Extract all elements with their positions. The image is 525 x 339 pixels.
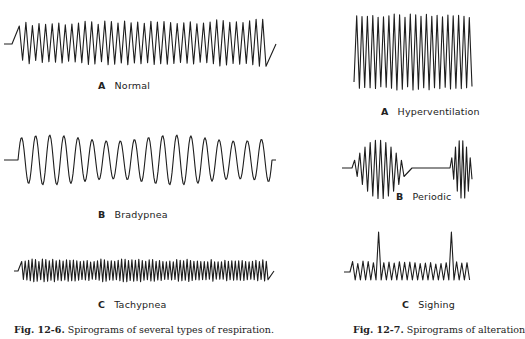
panel-letter: C	[402, 299, 409, 310]
panel-letter: A	[381, 106, 389, 117]
figure-caption-12-7: Fig. 12-7. Spirograms of alteration	[353, 324, 525, 335]
spirogram-normal	[4, 10, 276, 70]
panel-letter: C	[98, 299, 105, 310]
spirogram-sighing	[344, 232, 472, 296]
normal-trace	[4, 10, 276, 70]
panel-letter: A	[98, 80, 106, 91]
spirogram-hyperventilation	[354, 12, 472, 94]
sighing-trace	[344, 232, 472, 296]
figure-caption-text: Spirograms of alteration	[404, 324, 525, 335]
panel-letter: B	[396, 191, 403, 202]
label-periodic: BPeriodic	[396, 191, 452, 202]
panel-letter: B	[98, 209, 105, 220]
panel-name: Sighing	[418, 299, 455, 310]
label-tachypnea: CTachypnea	[98, 299, 167, 310]
spirogram-tachypnea	[14, 258, 274, 284]
panel-name: Bradypnea	[114, 209, 167, 220]
panel-name: Periodic	[412, 191, 451, 202]
figure-number: Fig. 12-6.	[14, 324, 65, 335]
figure-caption-text: Spirograms of several types of respirati…	[65, 324, 274, 335]
label-hyperventilation: AHyperventilation	[381, 106, 480, 117]
panel-name: Normal	[115, 80, 151, 91]
tachypnea-trace	[14, 258, 274, 284]
panel-name: Tachypnea	[114, 299, 166, 310]
figure-number: Fig. 12-7.	[353, 324, 404, 335]
label-sighing: CSighing	[402, 299, 455, 310]
hyperventilation-trace	[354, 12, 472, 94]
label-normal: ANormal	[98, 80, 150, 91]
label-bradypnea: BBradypnea	[98, 209, 168, 220]
figure-caption-12-6: Fig. 12-6. Spirograms of several types o…	[14, 324, 274, 335]
bradypnea-trace	[4, 130, 276, 190]
spirogram-bradypnea	[4, 130, 276, 190]
panel-name: Hyperventilation	[398, 106, 480, 117]
